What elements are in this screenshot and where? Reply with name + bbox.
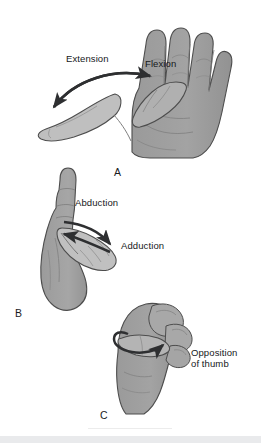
label-opposition-line1: Opposition <box>191 347 237 358</box>
panel-letter-a: A <box>114 166 121 178</box>
footer-faint-rule <box>88 428 172 429</box>
panel-letter-c: C <box>100 409 108 421</box>
panel-a-hand <box>38 28 232 158</box>
label-abduction: Abduction <box>75 197 118 208</box>
label-extension: Extension <box>66 53 109 64</box>
footer-band <box>0 436 261 443</box>
panel-c-hand <box>114 303 192 414</box>
panel-letter-b: B <box>15 307 22 319</box>
label-opposition-line2: of thumb <box>191 358 229 369</box>
hand-movements-illustration <box>0 0 261 447</box>
label-adduction: Adduction <box>121 240 164 251</box>
figure-canvas: Extension Flexion Abduction Adduction Op… <box>0 0 261 447</box>
label-flexion: Flexion <box>145 58 176 69</box>
panel-b-hand <box>41 168 116 310</box>
